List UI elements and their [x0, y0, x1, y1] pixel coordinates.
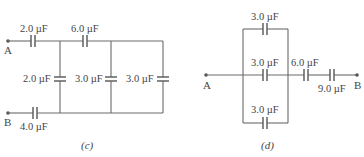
caption-c: (c): [81, 140, 93, 151]
cap-d-parallel-mid-label: 3.0 µF: [251, 58, 279, 69]
node-a-d-label: A: [203, 80, 211, 91]
cap-c-top-mid-label: 6.0 µF: [71, 24, 99, 35]
circuit-diagrams-svg: [0, 0, 364, 157]
cap-d-series-2-label: 9.0 µF: [318, 84, 346, 95]
node-a-c-label: A: [4, 45, 12, 56]
cap-d-parallel-bottom-label: 3.0 µF: [251, 105, 279, 116]
cap-d-parallel-top-label: 3.0 µF: [251, 12, 279, 23]
node-b-d-label: B: [354, 80, 361, 91]
capacitor-circuits-figure: 2.0 µF 6.0 µF A 2.0 µF 3.0 µF 3.0 µF B 4…: [0, 0, 364, 157]
cap-d-series-1-label: 6.0 µF: [291, 58, 319, 69]
cap-c-top-left-label: 2.0 µF: [20, 24, 48, 35]
node-b-c-label: B: [4, 117, 11, 128]
cap-c-vert-1-label: 2.0 µF: [23, 74, 51, 85]
cap-c-bottom-left-label: 4.0 µF: [20, 122, 48, 133]
cap-c-vert-3-label: 3.0 µF: [126, 74, 154, 85]
terminal-b-d-dot: [355, 73, 359, 77]
circuit-d: [204, 23, 359, 129]
cap-c-vert-2-label: 3.0 µF: [75, 74, 103, 85]
caption-d: (d): [261, 140, 274, 151]
